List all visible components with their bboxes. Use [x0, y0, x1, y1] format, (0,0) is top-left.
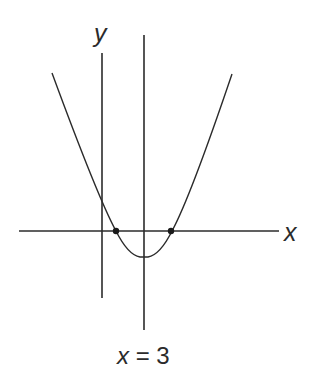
x-axis-label: x — [283, 218, 298, 246]
y-axis-label: y — [92, 19, 108, 47]
left-root-point — [113, 228, 119, 234]
axis-label-val: 3 — [156, 342, 169, 369]
axis-label-eq: = — [129, 342, 156, 369]
parabola-curve — [52, 73, 232, 257]
right-root-point — [168, 228, 174, 234]
axis-label-var: x — [116, 342, 130, 369]
parabola-diagram: y x x = 3 — [0, 0, 312, 384]
axis-of-symmetry-label: x = 3 — [116, 342, 170, 369]
